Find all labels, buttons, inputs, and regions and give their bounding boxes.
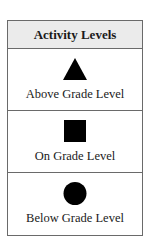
legend-title: Activity Levels — [8, 21, 142, 49]
circle-icon — [64, 182, 87, 205]
legend-item-label: Below Grade Level — [8, 211, 142, 226]
legend-item-label: On Grade Level — [8, 149, 142, 164]
legend-item-label: Above Grade Level — [8, 87, 142, 102]
legend-item-on-grade: On Grade Level — [8, 111, 142, 173]
triangle-icon — [63, 58, 87, 80]
legend-item-above-grade: Above Grade Level — [8, 49, 142, 111]
activity-levels-legend: Activity Levels Above Grade Level On Gra… — [7, 20, 143, 236]
square-icon — [64, 120, 86, 142]
legend-item-below-grade: Below Grade Level — [8, 173, 142, 235]
